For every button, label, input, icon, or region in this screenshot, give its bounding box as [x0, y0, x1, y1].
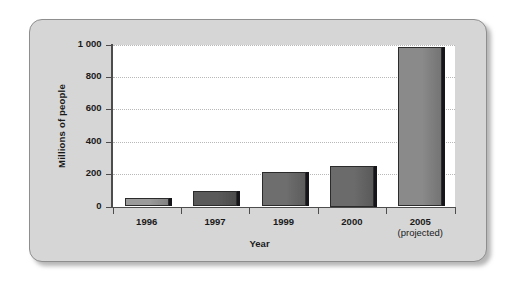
bar-2005: [398, 47, 442, 207]
y-axis-line: [111, 44, 113, 207]
chart-frame: 02004006008001 000 Millions of people 19…: [29, 19, 487, 262]
x-tick-label-note: (projected): [398, 227, 443, 239]
bar-1997: [193, 191, 237, 206]
y-tick-mark: [106, 207, 113, 208]
y-tick-mark: [106, 174, 113, 175]
x-tick-label: 1996: [136, 216, 157, 228]
y-tick-label: 0: [96, 200, 101, 211]
x-tick-label: 1999: [273, 216, 294, 228]
y-tick-label: 600: [86, 102, 102, 113]
bar-1999: [262, 172, 306, 206]
y-tick-label: 200: [86, 167, 102, 178]
x-tick-label: 1997: [205, 216, 226, 228]
bar-1996: [125, 198, 169, 206]
x-tick-label-year: 1999: [273, 216, 294, 227]
x-tick-label: 2000: [341, 216, 362, 228]
x-tick-mark: [249, 207, 250, 214]
y-axis-title: Millions of people: [55, 84, 66, 168]
y-tick-label: 400: [86, 135, 102, 146]
x-tick-mark: [318, 207, 319, 214]
y-tick-label: 800: [86, 70, 102, 81]
x-tick-mark: [113, 207, 114, 214]
x-tick-label-year: 1997: [205, 216, 226, 227]
y-tick-mark: [106, 142, 113, 143]
bar-2000: [330, 166, 374, 207]
gridline: [113, 45, 455, 46]
x-tick-mark: [455, 207, 456, 214]
x-tick-label: 2005(projected): [398, 216, 443, 239]
x-tick-label-year: 2000: [341, 216, 362, 227]
y-tick-mark: [106, 109, 113, 110]
x-tick-label-year: 1996: [136, 216, 157, 227]
x-tick-mark: [386, 207, 387, 214]
y-tick-label: 1 000: [78, 38, 102, 49]
y-tick-mark: [106, 45, 113, 46]
y-tick-mark: [106, 77, 113, 78]
x-tick-label-year: 2005: [410, 216, 431, 227]
x-axis-title: Year: [250, 238, 270, 249]
x-tick-mark: [181, 207, 182, 214]
x-axis-line: [111, 207, 456, 209]
